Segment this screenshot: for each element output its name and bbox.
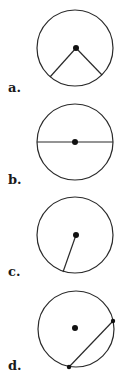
center-point: [72, 139, 78, 145]
center-point: [73, 232, 79, 238]
figure-c: c.: [8, 197, 113, 279]
figure-d: d.: [8, 291, 115, 373]
line-segment: [50, 48, 76, 77]
figure-a: a.: [8, 10, 113, 95]
center-point: [72, 325, 78, 331]
figure-b: b.: [8, 104, 113, 187]
figure-label: c.: [8, 264, 20, 279]
figure-label: a.: [8, 80, 21, 95]
figure-label: d.: [8, 358, 22, 373]
center-point: [73, 45, 79, 51]
endpoint-point: [67, 365, 71, 369]
endpoint-point: [111, 319, 115, 323]
line-segment: [63, 235, 76, 272]
figure-label: b.: [8, 172, 22, 187]
circle-diagrams: a.b.c.d.: [0, 0, 132, 377]
line-segment: [76, 48, 102, 75]
